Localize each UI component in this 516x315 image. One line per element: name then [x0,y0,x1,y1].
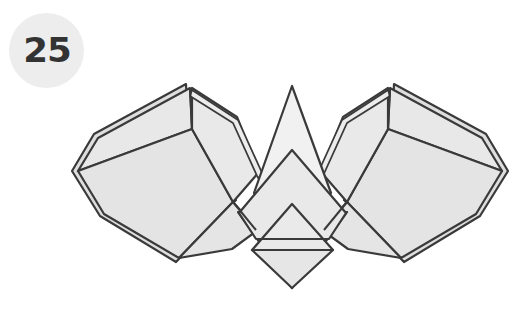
step-number-text: 25 [23,34,70,67]
origami-diagram-page: 25 [0,0,516,315]
right-wing-group [317,84,508,262]
step-number-badge: 25 [9,13,84,88]
center-spine-group [239,86,346,288]
bottom-point [252,250,333,288]
left-wing-group [72,84,263,262]
